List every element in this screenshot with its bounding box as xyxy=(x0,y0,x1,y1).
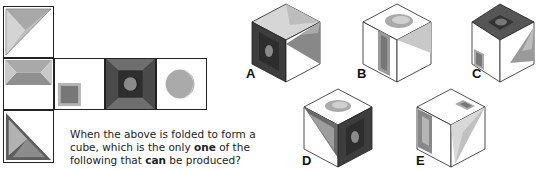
option-a-cube[interactable] xyxy=(250,3,322,83)
option-b-label[interactable]: B xyxy=(357,66,366,81)
option-e-cube[interactable] xyxy=(415,88,487,168)
cube-e-icon xyxy=(415,88,487,168)
cube-d-icon xyxy=(302,88,374,168)
question-line-2: cube, which is the only one of the xyxy=(70,141,280,154)
net-face-light-triangle xyxy=(3,6,54,58)
small-square-icon xyxy=(55,59,104,109)
question-line-1: When the above is folded to form a xyxy=(70,128,280,141)
emphasis-one: one xyxy=(194,141,216,153)
cube-a-icon xyxy=(250,3,322,83)
net-face-dark-moon xyxy=(105,58,156,110)
option-c-label[interactable]: C xyxy=(472,66,481,81)
net-face-light-moon xyxy=(156,58,207,110)
net-face-small-square xyxy=(54,58,105,110)
hourglass-bevel-icon xyxy=(4,59,53,109)
option-b-cube[interactable] xyxy=(361,3,433,83)
net-face-hourglass xyxy=(3,58,54,110)
dark-triangle-icon xyxy=(4,111,53,162)
option-e-label[interactable]: E xyxy=(416,153,425,168)
question-text: When the above is folded to form a cube,… xyxy=(70,128,280,167)
cube-b-icon xyxy=(361,3,433,83)
question-line-3: following that can be produced? xyxy=(70,154,280,167)
net-face-dark-triangle xyxy=(3,110,54,163)
emphasis-can: can xyxy=(145,154,166,166)
light-moon-icon xyxy=(157,59,206,109)
option-d-label[interactable]: D xyxy=(302,153,311,168)
option-d-cube[interactable] xyxy=(302,88,374,168)
dark-moon-icon xyxy=(106,59,155,109)
option-a-label[interactable]: A xyxy=(246,66,255,81)
light-triangle-icon xyxy=(4,7,53,57)
